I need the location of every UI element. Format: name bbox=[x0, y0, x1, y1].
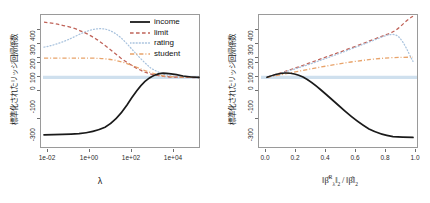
ytickmark-300-left bbox=[37, 43, 40, 44]
legend-item-student: student bbox=[130, 49, 200, 60]
curve-student bbox=[267, 57, 413, 77]
legend-key-rating bbox=[130, 39, 150, 47]
xtickmark-0.6-right bbox=[355, 149, 356, 152]
ytickmark-300-right bbox=[255, 43, 258, 44]
ytickmark-100-left bbox=[37, 62, 40, 63]
xtickmark-1e-02-left bbox=[47, 149, 48, 152]
xtick-label-0.6-right: 0.6 bbox=[340, 155, 370, 162]
xtickmark-1e+00-left bbox=[89, 149, 90, 152]
ytickmark-neg300-right bbox=[255, 118, 258, 119]
ytickmark-0-right bbox=[255, 76, 258, 77]
legend-label-income: income bbox=[154, 18, 180, 26]
ytickmark-400-right bbox=[255, 29, 258, 30]
curve-rating bbox=[267, 34, 413, 77]
xtickmark-0.4-right bbox=[325, 149, 326, 152]
ytickmark-100-right bbox=[255, 62, 258, 63]
xtick-label-1e+04-left: 1e+04 bbox=[153, 155, 193, 162]
ytickmark-200-right bbox=[255, 57, 258, 58]
xtickmark-0.2-right bbox=[295, 149, 296, 152]
curve-income bbox=[267, 73, 413, 137]
legend-left: income limit rating student bbox=[130, 17, 200, 59]
xtickmark-1e+02-left bbox=[131, 149, 132, 152]
legend-label-rating: rating bbox=[154, 39, 174, 47]
ytickmark-200-left bbox=[37, 57, 40, 58]
legend-key-income bbox=[130, 18, 150, 26]
legend-item-limit: limit bbox=[130, 28, 200, 39]
xtick-label-1e+02-left: 1e+02 bbox=[111, 155, 151, 162]
xtickmark-1.0-right bbox=[415, 149, 416, 152]
ytickmark-neg100-right bbox=[255, 90, 258, 91]
xtick-label-1e+00-left: 1e+00 bbox=[69, 155, 109, 162]
legend-label-limit: limit bbox=[154, 29, 168, 37]
xtick-label-1e-02-left: 1e-02 bbox=[27, 155, 67, 162]
xtickmark-0.8-right bbox=[385, 149, 386, 152]
legend-label-student: student bbox=[154, 50, 180, 58]
ytickmark-0-left bbox=[37, 76, 40, 77]
norm-ratio-formula: ‖β̂Rλ‖2 / ‖β̂‖2 bbox=[322, 175, 358, 185]
legend-item-rating: rating bbox=[130, 38, 200, 49]
ytickmark-neg300-left bbox=[37, 118, 40, 119]
chart-panel-right: 400 300 200 100 0 -100 -300 0.0 0.2 0.4 … bbox=[215, 0, 430, 203]
y-axis-title-left: 標準化されたリッジ回帰係数 bbox=[8, 13, 19, 147]
legend-key-limit bbox=[130, 29, 150, 37]
y-axis-title-right: 標準化されたリッジ回帰係数 bbox=[226, 13, 237, 147]
x-axis-title-left: λ bbox=[80, 176, 120, 186]
curve-limit bbox=[267, 16, 413, 77]
x-axis-title-right: ‖β̂Rλ‖2 / ‖β̂‖2 bbox=[275, 174, 405, 187]
chart-panel-left: income limit rating student bbox=[0, 0, 215, 203]
plot-curves-right bbox=[259, 15, 419, 149]
xtickmark-1e+04-left bbox=[173, 149, 174, 152]
xtick-label-0.2-right: 0.2 bbox=[280, 155, 310, 162]
xtick-label-0.8-right: 0.8 bbox=[370, 155, 400, 162]
ridge-regression-figure: income limit rating student bbox=[0, 0, 430, 203]
legend-key-student bbox=[130, 50, 150, 58]
xtick-label-0.4-right: 0.4 bbox=[310, 155, 340, 162]
plot-area-right bbox=[258, 14, 418, 148]
legend-item-income: income bbox=[130, 17, 200, 28]
ytickmark-neg100-left bbox=[37, 90, 40, 91]
ytickmark-400-left bbox=[37, 29, 40, 30]
curve-income bbox=[44, 73, 199, 135]
xtick-label-0.0-right: 0.0 bbox=[250, 155, 280, 162]
xtickmark-0.0-right bbox=[265, 149, 266, 152]
xtick-label-1.0-right: 1.0 bbox=[400, 155, 430, 162]
